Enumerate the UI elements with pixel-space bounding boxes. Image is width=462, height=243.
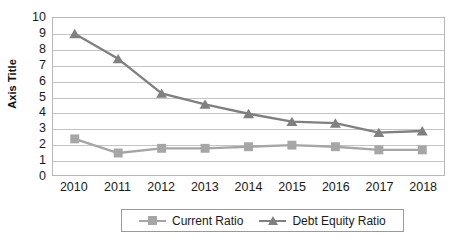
y-tick-5: 5	[20, 91, 46, 103]
y-tick-2: 2	[20, 138, 46, 150]
square-marker-icon	[287, 141, 296, 150]
x-tick-2016: 2016	[313, 180, 359, 194]
square-marker-icon	[114, 149, 123, 158]
triangle-marker-icon	[259, 214, 286, 227]
series-current-ratio	[70, 134, 427, 157]
square-marker-icon	[331, 142, 340, 151]
y-tick-8: 8	[20, 43, 46, 55]
square-marker-icon	[374, 145, 383, 154]
series-layer	[53, 18, 444, 175]
square-marker-icon	[157, 144, 166, 153]
series-debt-equity-ratio	[69, 29, 427, 137]
y-tick-9: 9	[20, 27, 46, 39]
square-marker-icon	[418, 145, 427, 154]
x-tick-2018: 2018	[400, 180, 446, 194]
x-tick-2017: 2017	[357, 180, 403, 194]
legend-entry[interactable]: Debt Equity Ratio	[259, 214, 385, 228]
line-chart: Axis Title 109876543210 2010201120122013…	[0, 0, 462, 243]
y-tick-0: 0	[20, 170, 46, 182]
legend-entry[interactable]: Current Ratio	[139, 214, 243, 228]
x-tick-2011: 2011	[95, 180, 141, 194]
square-marker-icon	[139, 214, 166, 227]
x-tick-2014: 2014	[226, 180, 272, 194]
plot-area	[52, 17, 445, 176]
y-axis-title: Axis Title	[6, 49, 18, 119]
square-marker-icon	[201, 144, 210, 153]
legend-label: Current Ratio	[172, 214, 243, 228]
square-marker-icon	[70, 134, 79, 143]
chart-legend: Current RatioDebt Equity Ratio	[121, 209, 404, 232]
square-marker-icon-glyph	[148, 216, 157, 225]
x-tick-2013: 2013	[182, 180, 228, 194]
x-tick-2015: 2015	[269, 180, 315, 194]
y-tick-6: 6	[20, 75, 46, 87]
y-axis-tick-labels: 109876543210	[20, 11, 46, 177]
square-marker-icon	[244, 142, 253, 151]
y-tick-10: 10	[20, 11, 46, 23]
triangle-marker-icon	[69, 29, 80, 38]
y-tick-7: 7	[20, 59, 46, 71]
x-tick-2010: 2010	[51, 180, 97, 194]
y-tick-1: 1	[20, 154, 46, 166]
y-tick-4: 4	[20, 106, 46, 118]
triangle-marker-icon-glyph	[268, 216, 278, 225]
x-tick-2012: 2012	[138, 180, 184, 194]
x-axis-tick-labels: 201020112012201320142015201620172018	[52, 180, 445, 198]
legend-label: Debt Equity Ratio	[292, 214, 385, 228]
y-tick-3: 3	[20, 122, 46, 134]
